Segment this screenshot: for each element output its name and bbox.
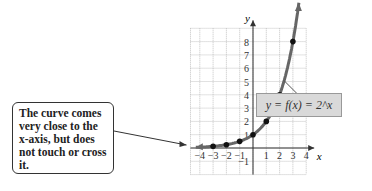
svg-text:−4: −4 — [194, 150, 205, 161]
svg-text:1: 1 — [264, 150, 269, 161]
svg-text:7: 7 — [244, 50, 249, 61]
svg-text:2: 2 — [244, 116, 249, 127]
svg-text:4: 4 — [244, 90, 249, 101]
function-label: y = f(x) = 2^x — [256, 93, 342, 117]
svg-text:2: 2 — [277, 150, 282, 161]
svg-text:−2: −2 — [221, 150, 232, 161]
svg-text:−1: −1 — [238, 156, 249, 167]
svg-text:3: 3 — [244, 103, 249, 114]
callout-box: The curve comes very close to the x-axis… — [12, 102, 114, 174]
svg-text:5: 5 — [244, 77, 249, 88]
function-label-text: y = f(x) = 2^x — [266, 98, 333, 112]
svg-text:4: 4 — [304, 150, 309, 161]
svg-text:−3: −3 — [208, 150, 219, 161]
svg-text:6: 6 — [244, 63, 249, 74]
svg-text:8: 8 — [244, 37, 249, 48]
svg-text:3: 3 — [290, 150, 295, 161]
svg-text:y: y — [244, 12, 250, 24]
svg-text:x: x — [316, 150, 322, 162]
